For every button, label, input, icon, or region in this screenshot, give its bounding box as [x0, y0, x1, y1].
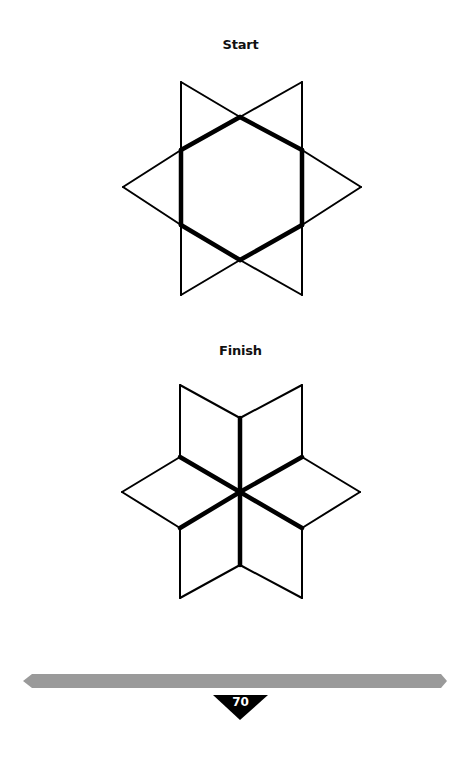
footer-bar — [23, 674, 447, 688]
page-number: 70 — [213, 695, 268, 709]
footer-decoration — [0, 0, 449, 762]
